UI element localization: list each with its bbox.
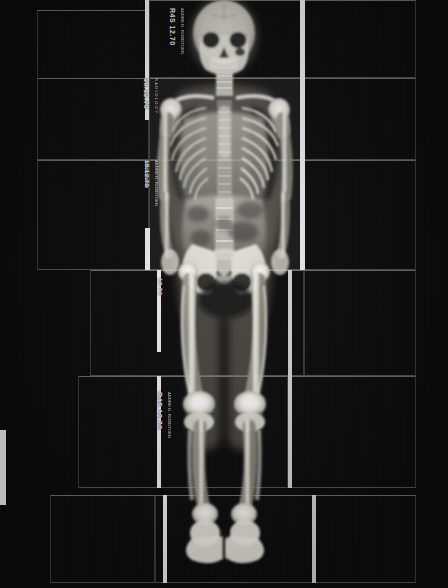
panel-abdomen-left xyxy=(37,160,149,270)
panel-pelvis-mid xyxy=(90,270,304,376)
stamp-abdomen-sub: ANDRE D. ROENTGEN xyxy=(154,160,158,206)
stamp-skull: R4S 12.70 xyxy=(169,8,176,46)
panel-thorax-mid xyxy=(149,78,304,160)
stamp-skull-sub: ANDRE D. ROENTGEN xyxy=(180,8,184,54)
strip-right-head xyxy=(300,0,305,78)
panel-thorax-right xyxy=(304,78,416,160)
panel-foot-mid xyxy=(155,495,315,583)
stamp-abdomen: 18.12.70 xyxy=(144,160,150,187)
strip-left-foot xyxy=(163,495,167,583)
strip-right-pelv xyxy=(288,270,292,376)
strip-left-pelvis xyxy=(145,228,150,270)
panel-abdomen-mid xyxy=(149,160,304,270)
panel-thigh-right xyxy=(288,376,416,488)
panel-pelvis-right xyxy=(304,270,416,376)
panel-thigh-mid xyxy=(160,376,288,488)
radiograph-composite: R4S 12.70ANDRE D. ROENTGEN18.12.70R A D … xyxy=(0,0,448,588)
strip-right-thx xyxy=(300,78,305,160)
strip-far-left xyxy=(0,430,6,505)
panel-thorax-left xyxy=(37,78,149,160)
panel-abdomen-right xyxy=(304,160,416,270)
stamp-thorax-sub: R A D I O L O G Y xyxy=(154,78,158,113)
panel-thigh-left xyxy=(78,376,160,488)
panel-foot-right xyxy=(315,495,416,583)
strip-left-head xyxy=(145,0,149,78)
strip-right-abd xyxy=(300,160,305,270)
stamp-pelvis: 12.70 xyxy=(157,278,163,296)
stamp-knee-sub: ANDRE D. ROENTGEN xyxy=(167,392,171,438)
panel-head-right xyxy=(304,0,416,78)
strip-right-thigh xyxy=(288,376,292,488)
stamp-thorax: 18.12.70 xyxy=(143,78,150,109)
panel-foot-left xyxy=(50,495,155,583)
stamp-knee: R4S 12.70 xyxy=(156,392,163,430)
strip-right-foot xyxy=(312,495,316,583)
